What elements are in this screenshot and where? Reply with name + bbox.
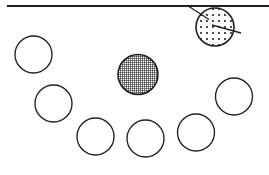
stippled-circle-group — [188, 6, 242, 47]
circle-diagram — [0, 0, 269, 175]
figure-canvas — [0, 0, 269, 175]
circle-upper-left — [15, 36, 52, 73]
circle-mid-left — [35, 85, 72, 122]
circle-center-crosshatched — [118, 55, 158, 95]
hatched-circle-group — [118, 55, 158, 95]
circle-bottom-mid — [127, 120, 164, 157]
circle-mid-right — [216, 78, 253, 115]
circle-top-right-stippled — [196, 8, 234, 46]
plain-circles-group — [15, 36, 253, 157]
circle-bottom-right — [178, 114, 215, 151]
circle-bottom-left — [77, 118, 114, 155]
